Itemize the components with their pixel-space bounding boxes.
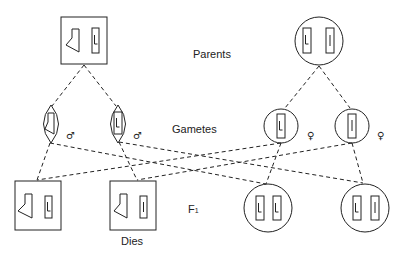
male-symbol-icon: ♂	[66, 130, 75, 141]
parent-female	[295, 17, 343, 65]
f1-male-2	[110, 181, 156, 230]
f1-label-main: F	[188, 203, 195, 215]
parents-label: Parents	[193, 48, 231, 60]
gamete-female-L	[264, 109, 298, 143]
female-symbol-icon: ♀	[377, 130, 384, 141]
gamete-male-deleted	[44, 105, 59, 143]
dies-label: Dies	[121, 235, 143, 247]
female-symbol-icon: ♀	[307, 130, 314, 141]
gametes-label: Gametes	[172, 123, 217, 135]
gamete-male-L	[111, 105, 126, 143]
f1-female-2	[341, 184, 389, 232]
gamete-female-l	[335, 109, 369, 143]
male-symbol-icon: ♂	[133, 130, 142, 141]
f1-label-subscript: 1	[195, 207, 199, 214]
f1-female-1	[244, 184, 292, 232]
parent-male	[61, 17, 107, 64]
f1-male-1	[15, 181, 61, 230]
f1-label: F1	[188, 203, 199, 215]
